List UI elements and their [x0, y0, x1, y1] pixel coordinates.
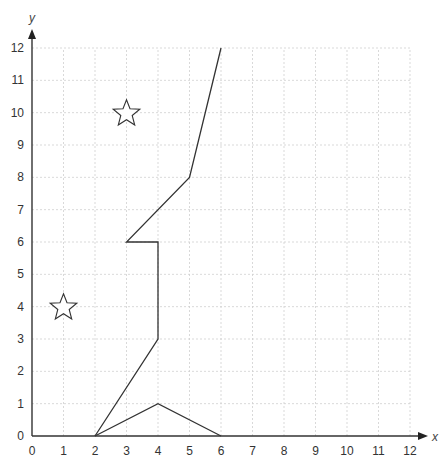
coordinate-diagram: x y 01234567891011120123456789101112	[0, 0, 445, 466]
y-tick-label: 11	[12, 73, 25, 87]
axes: x y	[28, 11, 439, 444]
x-tick-label: 11	[372, 444, 385, 458]
y-tick-label: 9	[17, 138, 24, 152]
x-tick-label: 4	[155, 444, 162, 458]
x-tick-label: 0	[29, 444, 36, 458]
x-tick-label: 2	[92, 444, 99, 458]
x-tick-label: 5	[186, 444, 193, 458]
x-tick-label: 10	[340, 444, 354, 458]
y-tick-label: 2	[17, 364, 24, 378]
y-tick-label: 10	[11, 106, 25, 120]
y-tick-label: 8	[17, 170, 24, 184]
x-axis-label: x	[431, 430, 439, 444]
x-tick-label: 12	[403, 444, 417, 458]
grid	[32, 48, 410, 436]
x-axis-arrow-icon	[418, 432, 428, 440]
y-tick-label: 1	[17, 397, 24, 411]
y-tick-label: 4	[17, 300, 24, 314]
y-axis-label: y	[28, 11, 36, 25]
x-tick-label: 3	[123, 444, 130, 458]
y-tick-label: 0	[17, 429, 24, 443]
y-tick-label: 7	[17, 203, 24, 217]
y-tick-label: 12	[11, 41, 25, 55]
star-1-icon	[113, 100, 140, 125]
y-tick-label: 6	[17, 235, 24, 249]
y-axis-arrow-icon	[28, 29, 36, 39]
x-tick-label: 6	[218, 444, 225, 458]
x-tick-label: 1	[60, 444, 67, 458]
y-tick-label: 3	[17, 332, 24, 346]
x-tick-label: 7	[249, 444, 256, 458]
x-tick-label: 8	[281, 444, 288, 458]
tick-labels: 01234567891011120123456789101112	[11, 41, 417, 458]
x-tick-label: 9	[312, 444, 319, 458]
y-tick-label: 5	[17, 267, 24, 281]
